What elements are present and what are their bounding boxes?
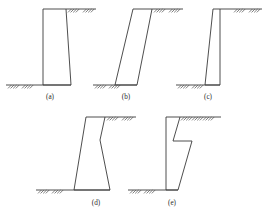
top-hatch-right-icon: [83, 9, 94, 12]
top-hatch-left-icon: [107, 117, 118, 120]
base-hatch-right-icon: [144, 190, 155, 193]
wall-section-e: [166, 117, 192, 190]
panels-layer: (a)(b)(c)(d)(e): [6, 9, 262, 207]
base-hatch-left-icon: [95, 85, 106, 88]
wall-panel-d: (d): [36, 117, 136, 207]
top-hatch-c-icon: [203, 117, 214, 120]
wall-panel-a: (a): [6, 9, 96, 101]
panel-label-d: (d): [92, 199, 101, 207]
wall-section-c: [205, 9, 220, 85]
top-hatch-left-icon: [154, 9, 165, 12]
wall-panel-e: (e): [128, 117, 221, 207]
base-hatch-left-icon: [8, 85, 19, 88]
top-hatch-right-icon: [249, 9, 260, 12]
panel-label-b: (b): [122, 93, 131, 101]
base-hatch-right-icon: [109, 85, 120, 88]
diagram-canvas: (a)(b)(c)(d)(e): [0, 0, 270, 213]
retaining-wall-figure: (a)(b)(c)(d)(e): [0, 0, 270, 213]
base-hatch-left-icon: [130, 190, 141, 193]
top-hatch-left-icon: [68, 9, 79, 12]
panel-label-e: (e): [168, 199, 177, 207]
base-hatch-left-icon: [178, 85, 189, 88]
top-hatch-right-icon: [169, 9, 180, 12]
top-hatch-left-icon: [234, 9, 245, 12]
base-hatch-right-icon: [52, 190, 63, 193]
wall-section-b: [115, 9, 152, 85]
top-hatch-a-icon: [181, 117, 192, 120]
wall-section-a: [43, 9, 71, 85]
wall-panel-b: (b): [93, 9, 183, 101]
base-hatch-left-icon: [38, 190, 49, 193]
base-hatch-right-icon: [22, 85, 33, 88]
wall-panel-c: (c): [176, 9, 262, 101]
wall-section-d: [74, 117, 110, 190]
panel-label-a: (a): [46, 93, 55, 101]
top-hatch-b-icon: [192, 117, 203, 120]
panel-label-c: (c): [204, 93, 213, 101]
top-hatch-right-icon: [122, 117, 133, 120]
base-hatch-right-icon: [192, 85, 203, 88]
